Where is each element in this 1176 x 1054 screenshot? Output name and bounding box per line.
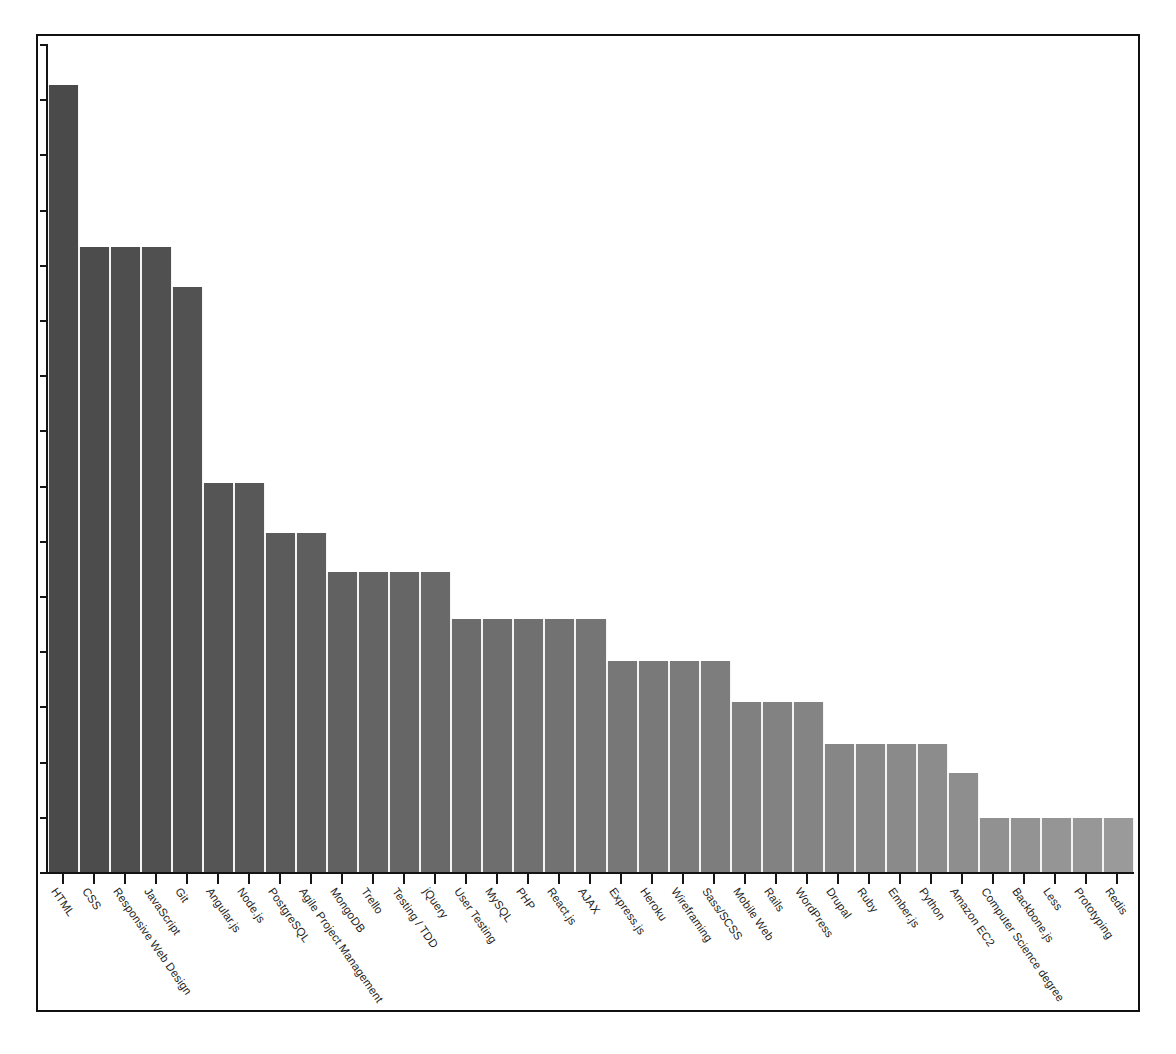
bar bbox=[141, 247, 172, 872]
x-axis-tick bbox=[496, 874, 498, 884]
bar bbox=[451, 619, 482, 872]
x-axis-tick bbox=[620, 874, 622, 884]
y-axis-tick bbox=[40, 99, 48, 101]
x-axis-tick bbox=[1023, 874, 1025, 884]
x-axis-label: Python bbox=[917, 886, 947, 922]
x-axis-label: Node.js bbox=[234, 886, 266, 925]
x-axis-label: HTML bbox=[48, 886, 76, 919]
x-axis-tick bbox=[961, 874, 963, 884]
bar bbox=[327, 572, 358, 872]
y-axis-ticks bbox=[40, 44, 48, 872]
x-axis-label: CSS bbox=[79, 886, 102, 912]
bar bbox=[1072, 818, 1103, 872]
y-axis-tick bbox=[40, 320, 48, 322]
x-axis-tick bbox=[713, 874, 715, 884]
x-axis-tick bbox=[279, 874, 281, 884]
bar bbox=[917, 744, 948, 872]
x-axis-tick bbox=[310, 874, 312, 884]
x-axis-tick bbox=[124, 874, 126, 884]
x-axis-tick bbox=[403, 874, 405, 884]
bar bbox=[513, 619, 544, 872]
bar bbox=[420, 572, 451, 872]
x-axis-label: AJAX bbox=[576, 886, 602, 916]
bar bbox=[700, 661, 731, 872]
bar-series bbox=[48, 44, 1134, 872]
y-axis-tick bbox=[40, 375, 48, 377]
bar bbox=[607, 661, 638, 872]
bar bbox=[731, 702, 762, 872]
bar bbox=[793, 702, 824, 872]
x-axis-tick bbox=[155, 874, 157, 884]
figure-frame: HTMLCSSResponsive Web DesignJavaScriptGi… bbox=[36, 34, 1140, 1012]
y-axis-tick bbox=[40, 596, 48, 598]
y-axis-tick bbox=[40, 154, 48, 156]
x-axis-tick bbox=[1085, 874, 1087, 884]
x-axis-label: PHP bbox=[514, 886, 537, 912]
x-axis-label: Less bbox=[1041, 886, 1065, 913]
x-axis-label: Heroku bbox=[638, 886, 669, 923]
x-axis-tick bbox=[744, 874, 746, 884]
y-axis-tick bbox=[40, 265, 48, 267]
bar bbox=[638, 661, 669, 872]
bar bbox=[544, 619, 575, 872]
x-axis-tick bbox=[992, 874, 994, 884]
x-axis-tick bbox=[186, 874, 188, 884]
bar bbox=[172, 287, 203, 872]
bar bbox=[48, 85, 79, 872]
x-axis-label: MySQL bbox=[482, 886, 514, 924]
y-axis-tick bbox=[40, 651, 48, 653]
x-axis-tick bbox=[837, 874, 839, 884]
x-axis-tick bbox=[93, 874, 95, 884]
x-axis-ticks bbox=[46, 874, 1134, 884]
x-axis-category-labels: HTMLCSSResponsive Web DesignJavaScriptGi… bbox=[48, 886, 1134, 1046]
bar bbox=[234, 483, 265, 872]
bar bbox=[1010, 818, 1041, 872]
bar bbox=[824, 744, 855, 872]
bar bbox=[762, 702, 793, 872]
x-axis-label: Ruby bbox=[855, 886, 880, 915]
x-axis-tick bbox=[651, 874, 653, 884]
bar bbox=[669, 661, 700, 872]
bar bbox=[358, 572, 389, 872]
x-axis-tick bbox=[806, 874, 808, 884]
bar bbox=[1103, 818, 1134, 872]
x-axis-tick bbox=[558, 874, 560, 884]
x-axis-label: Redis bbox=[1103, 886, 1130, 917]
bar bbox=[203, 483, 234, 872]
x-axis-tick bbox=[930, 874, 932, 884]
x-axis-tick bbox=[341, 874, 343, 884]
bar bbox=[855, 744, 886, 872]
x-axis-tick bbox=[527, 874, 529, 884]
x-axis-label: Drupal bbox=[824, 886, 853, 921]
bar bbox=[886, 744, 917, 872]
x-axis-tick bbox=[62, 874, 64, 884]
bar bbox=[1041, 818, 1072, 872]
x-axis-tick bbox=[682, 874, 684, 884]
y-axis-tick bbox=[40, 430, 48, 432]
y-axis-tick bbox=[40, 210, 48, 212]
bar bbox=[265, 533, 296, 872]
x-axis-tick bbox=[217, 874, 219, 884]
bar bbox=[575, 619, 606, 872]
bar bbox=[948, 773, 979, 872]
bar bbox=[979, 818, 1010, 872]
x-axis-tick bbox=[868, 874, 870, 884]
bar bbox=[296, 533, 327, 872]
bar bbox=[389, 572, 420, 872]
bar bbox=[110, 247, 141, 872]
x-axis-tick bbox=[589, 874, 591, 884]
x-axis-tick bbox=[372, 874, 374, 884]
chart-page: HTMLCSSResponsive Web DesignJavaScriptGi… bbox=[0, 0, 1176, 1054]
x-axis-label: Trello bbox=[358, 886, 384, 916]
x-axis-label: jQuery bbox=[420, 886, 449, 921]
y-axis-tick bbox=[40, 817, 48, 819]
y-axis-tick bbox=[40, 486, 48, 488]
x-axis-label: Rails bbox=[762, 886, 786, 914]
x-axis-tick bbox=[465, 874, 467, 884]
x-axis-label: React.js bbox=[545, 886, 579, 927]
y-axis-tick bbox=[40, 541, 48, 543]
x-axis-tick bbox=[775, 874, 777, 884]
plot-area: HTMLCSSResponsive Web DesignJavaScriptGi… bbox=[46, 44, 1134, 872]
x-axis-tick bbox=[1054, 874, 1056, 884]
x-axis-label: Git bbox=[172, 886, 190, 905]
